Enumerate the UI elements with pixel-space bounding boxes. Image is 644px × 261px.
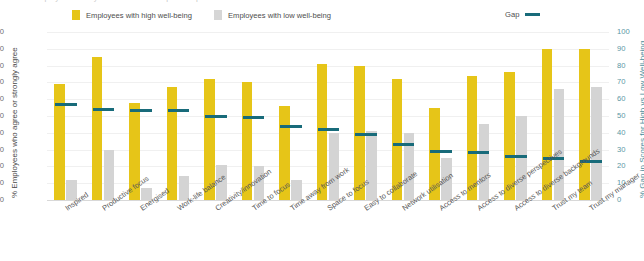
left-axis-title: % Employees who agree or strongly agree	[10, 47, 19, 198]
left-axis-tick: 10	[0, 179, 4, 187]
left-axis-tick: 60	[0, 95, 4, 103]
gap-marker[interactable]	[130, 109, 152, 112]
cropped-header-band: Base: All employees surveyed — index of …	[0, 0, 644, 7]
left-axis-tick: 70	[0, 78, 4, 86]
gap-marker[interactable]	[318, 128, 340, 131]
right-axis-tick: 40	[617, 129, 641, 137]
legend-item-gap[interactable]: Gap	[505, 10, 540, 19]
bar-group	[579, 32, 602, 200]
gap-marker[interactable]	[243, 116, 265, 119]
cropped-header-text: Base: All employees surveyed — index of …	[0, 0, 644, 2]
bar-group	[54, 32, 77, 200]
legend-item-high-wellbeing[interactable]: Employees with high well-being	[72, 10, 192, 20]
legend-item-low-wellbeing[interactable]: Employees with low well-being	[214, 10, 331, 20]
legend-label-low: Employees with low well-being	[228, 11, 331, 20]
gap-marker[interactable]	[468, 151, 490, 154]
left-axis-tick: 80	[0, 62, 4, 70]
right-axis-tick: 70	[617, 78, 641, 86]
bar-group	[129, 32, 152, 200]
gap-marker[interactable]	[505, 155, 527, 158]
right-axis-tick: 30	[617, 146, 641, 154]
right-axis-tick: 20	[617, 162, 641, 170]
left-axis-tick: 40	[0, 129, 4, 137]
chart-page: Base: All employees surveyed — index of …	[0, 0, 644, 261]
gap-marker[interactable]	[55, 103, 77, 106]
left-axis-tick: 50	[0, 112, 4, 120]
bar-high-wellbeing[interactable]	[54, 84, 65, 200]
gap-marker[interactable]	[355, 133, 377, 136]
bar-low-wellbeing[interactable]	[104, 150, 115, 200]
bar-group	[167, 32, 190, 200]
right-axis-tick: 100	[617, 28, 641, 36]
bar-group	[354, 32, 377, 200]
chart-legend: Employees with high well-being Employees…	[0, 9, 644, 25]
legend-label-gap: Gap	[505, 10, 519, 19]
teal-line-swatch-icon	[525, 13, 540, 16]
yellow-square-swatch-icon	[72, 10, 80, 20]
left-axis-tick: 30	[0, 146, 4, 154]
gap-marker[interactable]	[430, 150, 452, 153]
gap-marker[interactable]	[205, 115, 227, 118]
bar-group	[279, 32, 302, 200]
gap-marker[interactable]	[93, 108, 115, 111]
right-axis-tick: 90	[617, 45, 641, 53]
left-axis-tick: 100	[0, 28, 4, 36]
left-axis-tick: 90	[0, 45, 4, 53]
bar-low-wellbeing[interactable]	[329, 133, 340, 200]
bar-low-wellbeing[interactable]	[479, 124, 490, 200]
bar-low-wellbeing[interactable]	[516, 116, 527, 200]
right-axis-tick: 50	[617, 112, 641, 120]
gap-marker[interactable]	[168, 109, 190, 112]
bar-high-wellbeing[interactable]	[167, 87, 178, 200]
bar-high-wellbeing[interactable]	[92, 57, 103, 200]
bar-low-wellbeing[interactable]	[366, 131, 377, 200]
legend-label-high: Employees with high well-being	[86, 11, 192, 20]
right-axis-tick: 60	[617, 95, 641, 103]
bar-group	[92, 32, 115, 200]
grey-square-swatch-icon	[214, 10, 222, 20]
right-axis-tick: 80	[617, 62, 641, 70]
x-axis-labels: InspiredProductive focusEnergisedWork-li…	[0, 200, 644, 261]
left-axis-tick: 20	[0, 162, 4, 170]
gap-marker[interactable]	[280, 125, 302, 128]
gap-marker[interactable]	[393, 143, 415, 146]
